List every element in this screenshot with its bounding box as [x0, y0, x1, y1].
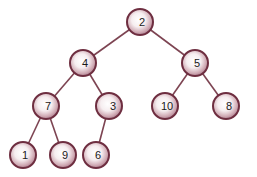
- tree-node-5: 5: [182, 50, 208, 76]
- tree-node-1: 1: [10, 142, 36, 168]
- tree-node-10: 10: [152, 93, 178, 119]
- tree-node-7: 7: [33, 93, 59, 119]
- node-label: 2: [139, 16, 145, 28]
- node-label: 10: [161, 100, 173, 112]
- node-label: 3: [110, 100, 116, 112]
- edges: [23, 22, 226, 155]
- node-label: 6: [95, 149, 101, 161]
- node-label: 7: [45, 100, 51, 112]
- node-label: 4: [82, 57, 88, 69]
- tree-node-8: 8: [213, 93, 239, 119]
- tree-node-9: 9: [50, 142, 76, 168]
- tree-node-4: 4: [70, 50, 96, 76]
- node-label: 8: [226, 100, 232, 112]
- tree-node-6: 6: [83, 142, 109, 168]
- tree-node-3: 3: [96, 93, 122, 119]
- tree-node-2: 2: [127, 9, 153, 35]
- node-label: 9: [62, 149, 68, 161]
- tree-diagram: 2 4 5 7 3 10 8 1: [0, 0, 257, 177]
- node-label: 1: [22, 149, 28, 161]
- node-label: 5: [194, 57, 200, 69]
